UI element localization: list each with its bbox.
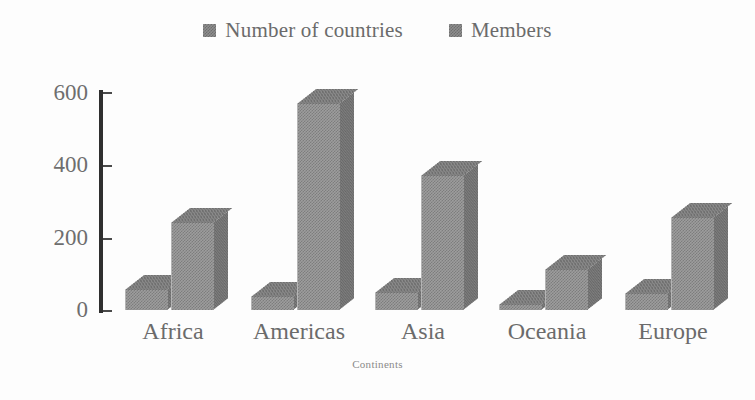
bar-front-face	[625, 294, 668, 310]
bar-front-face	[545, 270, 588, 310]
bar-asia-members	[421, 176, 463, 310]
bar-oceania-members	[545, 270, 587, 310]
category-label-europe: Europe	[638, 318, 707, 345]
bar-europe-number-of-countries	[625, 294, 667, 310]
bar-front-face	[375, 293, 418, 310]
x-axis-title: Continents	[0, 358, 755, 370]
plot-area: 600 400 200 0 Africa Americas Asia Ocean…	[0, 0, 755, 400]
bar-europe-members	[671, 218, 713, 310]
y-tick-label-400: 400	[24, 152, 88, 178]
bar-americas-number-of-countries	[251, 297, 293, 310]
bar-front-face	[421, 176, 464, 310]
category-label-africa: Africa	[142, 318, 203, 345]
bar-africa-number-of-countries	[125, 290, 167, 310]
bar-side-face	[339, 92, 354, 310]
bar-side-face	[213, 211, 228, 310]
y-tick-label-600: 600	[24, 80, 88, 106]
y-tick-label-0: 0	[24, 297, 88, 323]
y-axis-tick-labels: 600 400 200 0	[24, 0, 88, 400]
bar-front-face	[251, 297, 294, 310]
bar-africa-members	[171, 223, 213, 310]
bar-front-face	[125, 290, 168, 310]
bar-front-face	[671, 218, 714, 310]
bar-front-face	[171, 223, 214, 310]
bar-side-face	[713, 206, 728, 310]
category-label-asia: Asia	[401, 318, 445, 345]
x-axis-category-labels: Africa Americas Asia Oceania Europe	[103, 318, 743, 352]
bar-front-face	[499, 305, 542, 310]
bar-oceania-number-of-countries	[499, 305, 541, 310]
bar-asia-number-of-countries	[375, 293, 417, 310]
bar-americas-members	[297, 104, 339, 310]
bar-front-face	[297, 104, 340, 310]
bar-side-face	[463, 164, 478, 310]
chart-page: Number of countries Members 600 400 200 …	[0, 0, 755, 400]
category-label-oceania: Oceania	[508, 318, 587, 345]
category-label-americas: Americas	[253, 318, 345, 345]
y-tick-label-200: 200	[24, 225, 88, 251]
